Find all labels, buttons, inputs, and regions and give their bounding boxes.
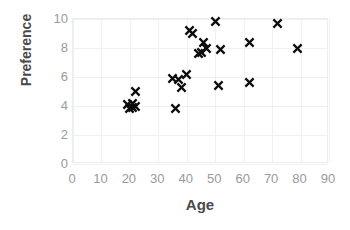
data-point-marker <box>122 99 133 110</box>
gridline-horizontal <box>73 164 327 165</box>
scatter-chart: Preference 0246810 0102030405060708090 A… <box>0 0 350 230</box>
x-tick-label: 0 <box>57 172 87 185</box>
y-tick-label: 4 <box>44 99 68 112</box>
x-tick-label: 20 <box>114 172 144 185</box>
data-point-marker <box>167 73 178 84</box>
gridline-vertical <box>187 19 188 162</box>
x-tick-label: 10 <box>85 172 115 185</box>
x-tick-label: 40 <box>171 172 201 185</box>
gridline-horizontal <box>73 48 327 49</box>
gridline-vertical <box>244 19 245 162</box>
gridline-vertical <box>272 19 273 162</box>
gridline-vertical <box>158 19 159 162</box>
data-point-marker <box>244 37 255 48</box>
data-point-marker <box>193 48 204 59</box>
x-tick-label: 50 <box>199 172 229 185</box>
data-point-marker <box>244 77 255 88</box>
data-point-marker <box>130 86 141 97</box>
gridline-vertical <box>215 19 216 162</box>
y-axis-tick-labels: 0246810 <box>42 0 68 230</box>
gridline-vertical <box>101 19 102 162</box>
x-axis-tick-labels: 0102030405060708090 <box>0 172 350 190</box>
y-tick-label: 8 <box>44 41 68 54</box>
data-point-marker <box>176 82 187 93</box>
data-point-marker <box>198 37 209 48</box>
y-tick-label: 2 <box>44 128 68 141</box>
y-tick-label: 10 <box>44 12 68 25</box>
gridline-vertical <box>73 19 74 162</box>
gridline-horizontal <box>73 135 327 136</box>
x-tick-label: 70 <box>256 172 286 185</box>
data-point-marker <box>187 28 198 39</box>
y-tick-label: 0 <box>44 157 68 170</box>
gridline-horizontal <box>73 19 327 20</box>
gridline-horizontal <box>73 106 327 107</box>
x-tick-label: 90 <box>313 172 343 185</box>
x-tick-label: 30 <box>142 172 172 185</box>
x-tick-label: 60 <box>228 172 258 185</box>
plot-area <box>72 18 328 163</box>
data-point-marker <box>127 102 138 113</box>
gridline-vertical <box>329 19 330 162</box>
x-tick-label: 80 <box>285 172 315 185</box>
data-point-marker <box>213 80 224 91</box>
gridline-vertical <box>130 19 131 162</box>
y-axis-title: Preference <box>18 0 34 120</box>
y-tick-label: 6 <box>44 70 68 83</box>
gridline-horizontal <box>73 77 327 78</box>
x-axis-title: Age <box>72 196 328 213</box>
data-point-marker <box>215 44 226 55</box>
data-point-marker <box>184 25 195 36</box>
gridline-vertical <box>301 19 302 162</box>
